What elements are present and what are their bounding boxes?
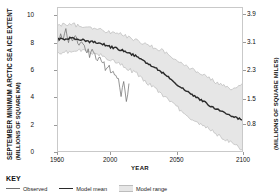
- y-tickmark-left: [54, 43, 57, 44]
- chart-canvas: [58, 8, 242, 151]
- y-tick-right-1.5: 1.5: [247, 95, 273, 102]
- x-axis-title: YEAR: [0, 165, 280, 171]
- plot-area: [57, 7, 243, 152]
- key-item-label: Observed: [23, 186, 47, 192]
- y-tickmark-right: [243, 14, 246, 15]
- key-line-swatch: [59, 188, 73, 189]
- y-tick-left-8: 8: [10, 39, 34, 46]
- y-tickmark-right: [243, 99, 246, 100]
- x-tick-1960: 1960: [37, 156, 77, 163]
- x-tickmark: [177, 152, 178, 155]
- key-item-label: Model mean: [76, 186, 107, 192]
- x-tick-2000: 2000: [90, 156, 130, 163]
- x-tick-2100: 2100: [223, 156, 263, 163]
- x-tickmark: [243, 152, 244, 155]
- y-axis-left-title-line1: SEPTEMBER MINIMUM ARCTIC SEA ICE EXTENT: [6, 8, 13, 160]
- x-tick-2050: 2050: [157, 156, 197, 163]
- key-item-label: Model range: [136, 186, 167, 192]
- key-band-swatch: [119, 185, 133, 192]
- y-tick-right-3.1: 3.1: [247, 38, 273, 45]
- y-tickmark-left: [54, 97, 57, 98]
- key-item-2: Model range: [119, 185, 167, 192]
- key-title: KEY: [6, 175, 167, 182]
- key: KEY ObservedModel meanModel range: [6, 175, 167, 192]
- y-tickmark-right: [243, 124, 246, 125]
- x-tickmark: [57, 152, 58, 155]
- y-axis-right-title: (MILLIONS OF SQUARE MILES): [272, 57, 280, 150]
- y-tick-left-4: 4: [10, 93, 34, 100]
- y-tickmark-left: [54, 70, 57, 71]
- x-tickmark: [110, 152, 111, 155]
- y-tickmark-left: [54, 15, 57, 16]
- y-tick-left-2: 2: [10, 121, 34, 128]
- y-tick-left-6: 6: [10, 66, 34, 73]
- y-tickmark-right: [243, 42, 246, 43]
- key-item-1: Model mean: [59, 186, 107, 192]
- y-tick-left-0: 0: [10, 148, 34, 155]
- key-item-0: Observed: [6, 186, 47, 192]
- y-tickmark-right: [243, 70, 246, 71]
- y-tick-right-0.8: 0.8: [247, 120, 273, 127]
- key-items: ObservedModel meanModel range: [6, 185, 167, 192]
- sea-ice-extent-chart: SEPTEMBER MINIMUM ARCTIC SEA ICE EXTENT …: [0, 0, 280, 192]
- y-tickmark-left: [54, 125, 57, 126]
- y-tick-right-2.3: 2.3: [247, 66, 273, 73]
- y-tick-right-3.9: 3.9: [247, 10, 273, 17]
- y-axis-left-title: SEPTEMBER MINIMUM ARCTIC SEA ICE EXTENT …: [6, 8, 22, 160]
- key-line-swatch: [6, 188, 20, 189]
- y-tick-left-10: 10: [10, 11, 34, 18]
